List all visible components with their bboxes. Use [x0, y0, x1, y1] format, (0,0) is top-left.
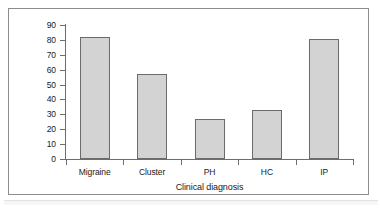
y-axis-tick-label: 70 — [14, 51, 56, 60]
bar-hc — [252, 110, 282, 159]
y-axis-tick — [60, 99, 65, 100]
bar-migraine — [80, 37, 110, 159]
x-axis-tick — [296, 160, 297, 165]
y-axis-tick — [60, 70, 65, 71]
figure-frame: Percent with throbbing pain 908070605040… — [8, 8, 369, 195]
x-axis-tick — [123, 160, 124, 165]
y-axis-tick — [60, 55, 65, 56]
x-axis-tick — [66, 160, 67, 165]
y-axis-tick-label: 20 — [14, 125, 56, 134]
x-axis-tick — [181, 160, 182, 165]
bar-ip — [309, 39, 339, 159]
bar-ph — [195, 119, 225, 159]
y-axis-tick-label: 50 — [14, 81, 56, 90]
y-axis-tick — [60, 159, 65, 160]
plot-area — [66, 25, 353, 159]
y-axis-tick — [60, 40, 65, 41]
y-axis-tick — [60, 114, 65, 115]
x-axis-tick-label-migraine: Migraine — [66, 168, 123, 177]
y-axis-tick-label: 10 — [14, 140, 56, 149]
y-axis-tick — [60, 144, 65, 145]
x-axis-tick — [238, 160, 239, 165]
x-axis-tick-label-hc: HC — [238, 168, 295, 177]
x-axis-tick-label-ip: IP — [296, 168, 353, 177]
y-axis-tick-label: 90 — [14, 21, 56, 30]
y-axis-tick — [60, 129, 65, 130]
bar-cluster — [137, 74, 167, 159]
chart-screenshot: Percent with throbbing pain 908070605040… — [0, 0, 380, 209]
x-axis-tick-label-ph: PH — [181, 168, 238, 177]
scan-artifact — [4, 200, 378, 205]
y-axis-tick-label: 30 — [14, 110, 56, 119]
y-axis-tick-label: 80 — [14, 36, 56, 45]
x-axis-tick — [353, 160, 354, 165]
x-axis-tick-label-cluster: Cluster — [123, 168, 180, 177]
x-axis-title: Clinical diagnosis — [66, 182, 353, 192]
x-axis-line — [65, 159, 354, 160]
y-axis-tick-label: 0 — [14, 155, 56, 164]
y-axis-tick-label: 40 — [14, 95, 56, 104]
y-axis-tick-label: 60 — [14, 66, 56, 75]
y-axis-tick — [60, 85, 65, 86]
y-axis-tick — [60, 25, 65, 26]
